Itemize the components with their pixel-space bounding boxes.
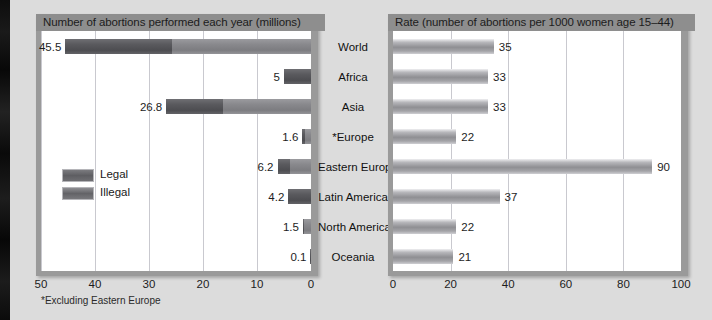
left-axis-tick: 40 [79,278,111,290]
left-chart-bar [302,129,311,144]
legend-swatch-illegal [62,187,94,200]
gridline [149,31,150,271]
category-label: Oceania [318,251,388,263]
left-chart-bar [65,39,311,54]
bar-segment-illegal [166,99,223,114]
right-chart-title: Rate (number of abortions per 1000 women… [388,14,695,31]
right-axis-tick: 40 [492,278,524,290]
right-chart-bar [393,219,456,234]
gridline [95,31,96,271]
bar-segment-legal [223,99,311,114]
right-axis-tick: 20 [435,278,467,290]
left-chart-plot-area [41,31,311,271]
legend-label-illegal: Illegal [100,186,130,199]
left-chart-value-label: 1.6 [269,131,298,143]
film-edge-strip [0,0,10,320]
right-chart-bar [393,249,453,264]
left-axis-tick: 30 [133,278,165,290]
gridline [203,31,204,271]
gridline [508,31,509,271]
category-label: Asia [318,101,388,113]
left-chart-value-label: 5 [251,71,280,83]
right-chart-value-label: 37 [505,191,518,203]
gridline [257,31,258,271]
left-chart-bar [278,159,311,174]
bar-segment-illegal [288,189,311,204]
left-chart-value-label: 45.5 [32,41,61,53]
bar-segment-legal [305,129,311,144]
right-axis-tick: 80 [607,278,639,290]
left-chart-value-label: 0.1 [277,251,306,263]
left-chart-value-label: 6.2 [245,161,274,173]
left-chart-value-label: 4.2 [255,191,284,203]
legend-swatch-legal [62,169,94,182]
bar-segment-illegal [310,249,311,264]
right-chart-bar [393,69,488,84]
category-label: World [318,41,388,53]
right-axis-tick: 100 [665,278,697,290]
right-chart-panel: Rate (number of abortions per 1000 women… [388,14,688,276]
left-chart-title: Number of abortions performed each year … [36,14,325,31]
right-chart-plot-area [393,31,681,271]
legend: LegalIllegal [62,168,182,204]
left-axis-tick: 50 [25,278,57,290]
left-chart-bar [166,99,311,114]
category-label: Eastern Europe [318,161,388,173]
left-axis-tick: 10 [241,278,273,290]
right-axis-tick: 60 [550,278,582,290]
bar-segment-illegal [284,69,311,84]
gridline [451,31,452,271]
left-chart-bar [303,219,311,234]
category-label: North America [318,221,388,233]
bar-segment-illegal [65,39,171,54]
right-chart-value-label: 90 [657,161,670,173]
left-chart-panel: Number of abortions performed each year … [36,14,318,276]
right-chart-value-label: 22 [461,221,474,233]
right-chart-value-label: 22 [461,131,474,143]
gridline [41,31,42,271]
legend-item-illegal: Illegal [62,186,172,199]
left-axis-tick: 0 [295,278,327,290]
legend-label-legal: Legal [100,168,128,181]
category-label: *Europe [318,131,388,143]
right-chart-value-label: 33 [493,71,506,83]
right-axis-tick: 0 [377,278,409,290]
right-chart-bar [393,189,500,204]
right-chart-value-label: 33 [493,101,506,113]
right-chart-bar [393,159,652,174]
left-chart-footnote: *Excluding Eastern Europe [41,295,161,306]
right-chart-bar [393,39,494,54]
legend-item-legal: Legal [62,168,172,181]
left-chart-bar [288,189,311,204]
gridline [566,31,567,271]
left-axis-tick: 20 [187,278,219,290]
category-label: Africa [318,71,388,83]
bar-segment-legal [172,39,311,54]
right-chart-bar [393,99,488,114]
left-chart-value-label: 1.5 [270,221,299,233]
right-chart-bar [393,129,456,144]
category-label: Latin America [318,191,388,203]
bar-segment-illegal [278,159,291,174]
right-chart-value-label: 35 [499,41,512,53]
left-chart-value-label: 26.8 [133,101,162,113]
gridline [623,31,624,271]
bar-segment-legal [290,159,311,174]
left-chart-bar [310,249,311,264]
right-chart-value-label: 21 [458,251,471,263]
left-chart-bar [284,69,311,84]
bar-segment-legal [304,219,311,234]
